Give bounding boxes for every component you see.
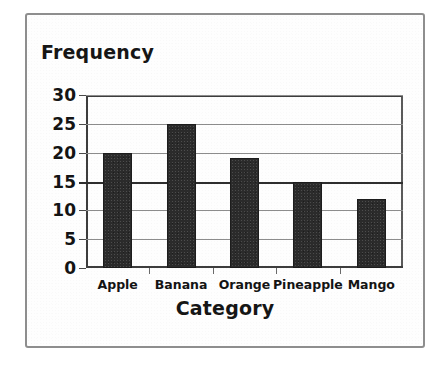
y-tick-label-30: 30 <box>52 85 76 105</box>
x-tick-2 <box>276 268 277 274</box>
y-tick-label-25: 25 <box>52 114 76 134</box>
x-category-label-orange: Orange <box>219 277 271 292</box>
x-category-label-apple: Apple <box>98 277 138 292</box>
bar-apple <box>103 153 132 268</box>
y-tick-0 <box>79 268 86 269</box>
y-tick-5 <box>79 239 86 240</box>
y-tick-25 <box>79 124 86 125</box>
bar-pineapple <box>293 182 322 269</box>
figure-frame: Frequency 051015202530 AppleBananaOrange… <box>25 13 425 348</box>
x-tick-0 <box>149 268 150 274</box>
gridline-20 <box>86 153 403 154</box>
y-tick-label-5: 5 <box>64 229 76 249</box>
y-tick-label-20: 20 <box>52 143 76 163</box>
gridline-25 <box>86 124 403 125</box>
x-category-label-mango: Mango <box>348 277 395 292</box>
x-category-label-banana: Banana <box>155 277 208 292</box>
y-tick-10 <box>79 210 86 211</box>
bar-mango <box>357 199 386 268</box>
gridline-30 <box>86 95 403 96</box>
x-tick-3 <box>340 268 341 274</box>
y-tick-label-0: 0 <box>64 258 76 278</box>
x-category-label-pineapple: Pineapple <box>273 277 343 292</box>
y-tick-label-15: 15 <box>52 172 76 192</box>
y-tick-20 <box>79 153 86 154</box>
y-tick-label-10: 10 <box>52 200 76 220</box>
y-tick-30 <box>79 95 86 96</box>
bar-orange <box>230 158 259 268</box>
bar-banana <box>167 124 196 268</box>
y-axis-title: Frequency <box>41 41 154 63</box>
x-axis-title: Category <box>27 297 423 319</box>
plot-area: 051015202530 AppleBananaOrangePineappleM… <box>86 95 403 268</box>
y-tick-15 <box>79 182 86 184</box>
x-tick-1 <box>213 268 214 274</box>
